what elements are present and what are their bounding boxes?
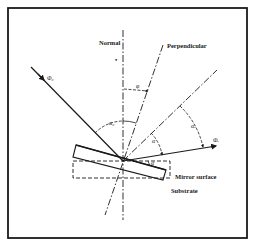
frame-border <box>8 8 247 238</box>
incident-ray-arrow <box>38 74 44 80</box>
mirror-top-edge <box>76 145 166 170</box>
incident-symbol: Φ₀ <box>47 75 54 81</box>
phi-symbol: φ <box>136 83 140 89</box>
incident-ray <box>31 67 123 161</box>
mirror-reflection-diagram: Normal • Perpendicular Mirror surface Su… <box>0 0 255 242</box>
normal-marker-dot: • <box>115 56 118 63</box>
substrate-label: Substrate <box>171 187 198 194</box>
perpendicular-line <box>105 45 163 215</box>
alpha-angle-arc <box>123 121 136 123</box>
phi-angle-arc <box>124 89 148 91</box>
alpha-r-symbol: αᵣ <box>191 123 196 129</box>
reflected-symbol: Φᵣ <box>213 137 220 143</box>
perpendicular-label: Perpendicular <box>167 42 207 49</box>
reflected-ray <box>123 146 216 161</box>
alpha-reflect-arc <box>151 133 162 155</box>
alpha0-symbol: α₀ <box>109 120 114 126</box>
mirror-surface-label: Mirror surface <box>175 173 217 180</box>
normal-label: Normal <box>99 39 120 46</box>
